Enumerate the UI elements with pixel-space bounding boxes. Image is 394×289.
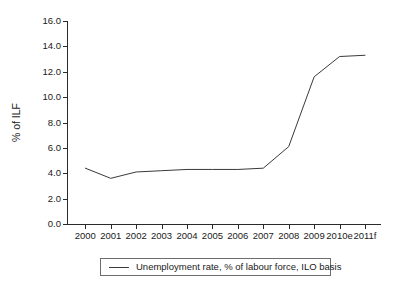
x-tick-label: 2010e — [326, 231, 352, 241]
x-tick-mark — [111, 224, 112, 229]
y-tick-mark — [63, 224, 67, 225]
y-tick-label: 10.0 — [43, 92, 62, 102]
x-tick-mark — [365, 224, 366, 229]
y-tick-label: 14.0 — [43, 42, 62, 52]
x-tick-mark — [263, 224, 264, 229]
x-axis-line — [67, 224, 381, 225]
x-tick-mark — [85, 224, 86, 229]
x-tick-label: 2005 — [202, 231, 223, 241]
y-tick-label: 0.0 — [48, 219, 61, 229]
x-tick-mark — [136, 224, 137, 229]
x-tick-mark — [340, 224, 341, 229]
x-tick-label: 2007 — [253, 231, 274, 241]
y-tick-label: 16.0 — [43, 16, 62, 26]
x-tick-mark — [212, 224, 213, 229]
y-axis-title-container: % of ILF — [0, 21, 30, 224]
x-tick-mark — [238, 224, 239, 229]
x-tick-mark — [187, 224, 188, 229]
legend-label: Unemployment rate, % of labour force, IL… — [136, 262, 341, 272]
x-tick-label: 2000 — [75, 231, 96, 241]
unemployment-rate-line-chart: % of ILF 0.02.04.06.08.010.012.014.016.0… — [0, 0, 394, 289]
x-tick-label: 2008 — [278, 231, 299, 241]
y-tick-label: 6.0 — [48, 143, 61, 153]
x-tick-mark — [314, 224, 315, 229]
x-tick-label: 2001 — [100, 231, 121, 241]
x-tick-mark — [162, 224, 163, 229]
y-tick-label: 12.0 — [43, 67, 62, 77]
x-tick-label: 2004 — [176, 231, 197, 241]
y-axis-title: % of ILF — [9, 21, 23, 224]
x-tick-label: 2006 — [227, 231, 248, 241]
x-tick-mark — [289, 224, 290, 229]
y-tick-label: 4.0 — [48, 169, 61, 179]
x-tick-label: 2011f — [353, 231, 376, 241]
x-tick-label: 2003 — [151, 231, 172, 241]
series-line-unemployment-rate — [67, 21, 381, 224]
y-tick-label: 2.0 — [48, 194, 61, 204]
x-tick-label: 2009 — [304, 231, 325, 241]
plot-area: 0.02.04.06.08.010.012.014.016.0 20002001… — [67, 21, 381, 224]
legend-line-swatch — [109, 267, 129, 268]
legend: Unemployment rate, % of labour force, IL… — [100, 258, 331, 276]
y-tick-label: 8.0 — [48, 118, 61, 128]
x-tick-label: 2002 — [126, 231, 147, 241]
